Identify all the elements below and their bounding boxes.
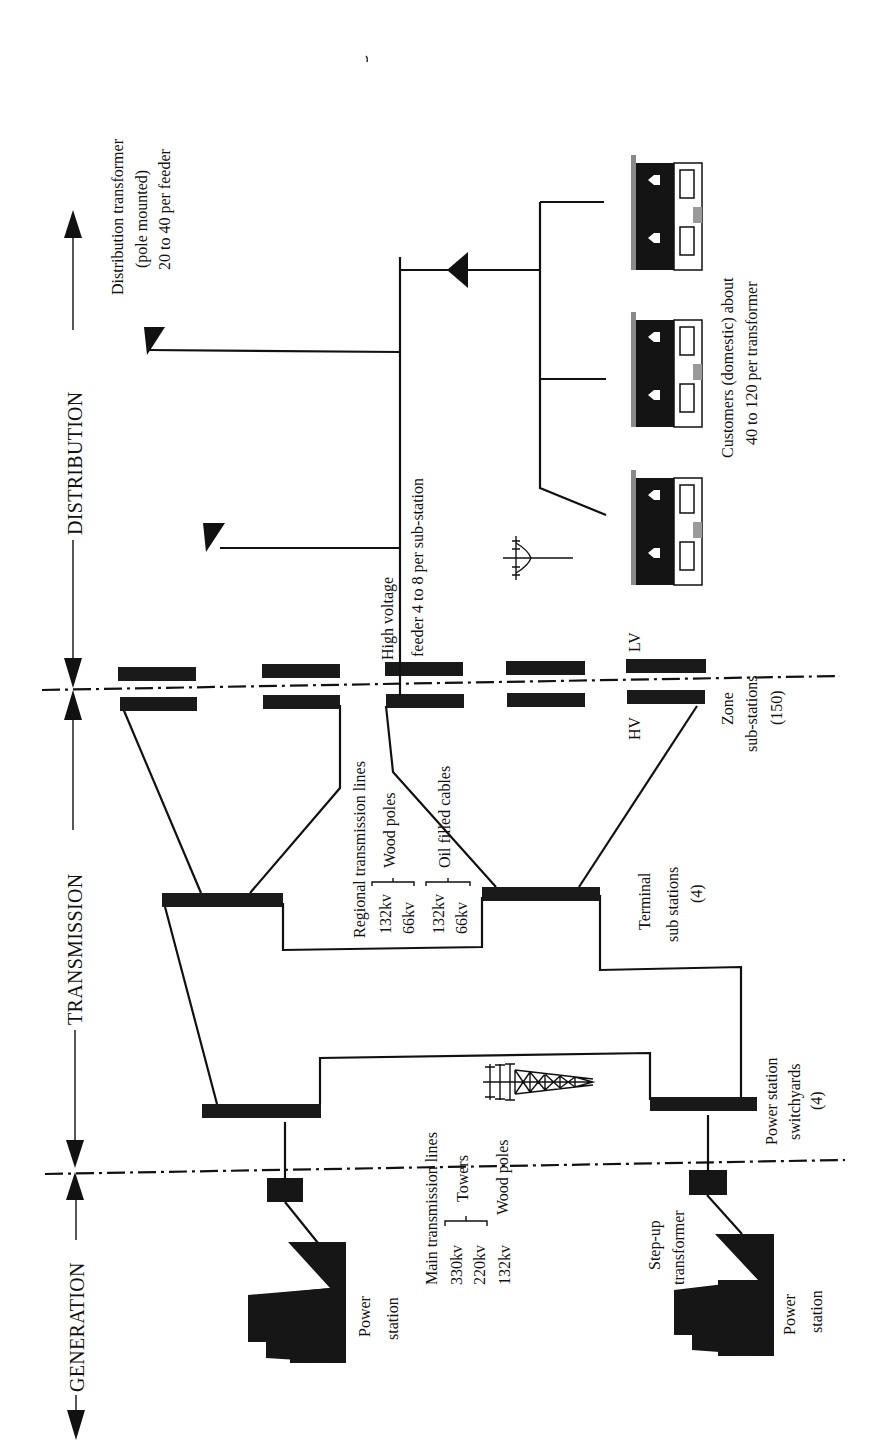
svg-text:Oil filled cables: Oil filled cables xyxy=(436,766,453,868)
distribution-transformer-icon xyxy=(447,252,468,288)
customers-label-line1: Customers (domestic) about xyxy=(719,277,737,458)
svg-text:132kv: 132kv xyxy=(496,1245,513,1285)
section-axis: DISTRIBUTION TRANSMISSION GENERATION xyxy=(64,210,88,1440)
arrow-down-icon xyxy=(64,658,82,688)
house-icon xyxy=(631,470,702,585)
transmission-tower-icon xyxy=(483,1064,593,1100)
regional-transmission-lines-label: Regional transmission lines 132kv 66kv W… xyxy=(351,761,470,938)
zone-label-line1: Zone xyxy=(719,692,736,725)
power-station-1-label-line2: station xyxy=(384,1297,401,1340)
switchyard-bus-1 xyxy=(202,1104,321,1118)
power-station-2-label-line1: Power xyxy=(781,1293,798,1335)
svg-text:66kv: 66kv xyxy=(453,902,470,934)
section-label-distribution: DISTRIBUTION xyxy=(64,391,86,535)
terminal-label-line1: Terminal xyxy=(636,872,653,930)
switchyards-label-line1: Power station xyxy=(763,1057,780,1145)
power-station-2: Power station xyxy=(674,1170,825,1356)
section-label-generation: GENERATION xyxy=(66,1262,88,1392)
zone-label-line3: (150) xyxy=(768,690,786,725)
svg-text:330kv: 330kv xyxy=(448,1245,465,1285)
power-station-2-label-line2: station xyxy=(808,1290,825,1333)
svg-text:220kv: 220kv xyxy=(471,1245,488,1285)
svg-text:132kv: 132kv xyxy=(377,894,394,934)
step-up-transformer-label-line2: transformer xyxy=(670,1210,687,1285)
customers-label-line2: 40 to 120 per transformer xyxy=(743,281,761,445)
power-system-diagram: DISTRIBUTION TRANSMISSION GENERATION Pow… xyxy=(0,0,890,1448)
arrow-down-icon xyxy=(66,1140,84,1168)
svg-text:Wood poles: Wood poles xyxy=(381,792,399,868)
terminal-bus-2 xyxy=(482,887,600,901)
hv-feeder-label-line2: feeder 4 to 8 per sub-station xyxy=(409,478,427,657)
terminal-label-line2: sub stations xyxy=(664,867,681,942)
section-label-transmission: TRANSMISSION xyxy=(64,874,86,1025)
distribution-transformer-label-line1: Distribution transformer xyxy=(109,138,126,295)
main-transmission-lines-label: Main transmission lines 330kv 220kv 132k… xyxy=(423,1132,513,1285)
power-station-1-label-line1: Power xyxy=(356,1295,373,1337)
pole-icon xyxy=(503,536,573,580)
svg-text:Towers: Towers xyxy=(454,1155,471,1202)
zone-label-line2: sub-stations xyxy=(743,676,760,752)
svg-text:Wood poles: Wood poles xyxy=(494,1139,512,1215)
svg-text:Main transmission lines: Main transmission lines xyxy=(423,1132,440,1285)
house-icon xyxy=(631,312,702,427)
distribution-transformer-label-line2: (pole mounted) xyxy=(133,170,151,268)
svg-text:132kv: 132kv xyxy=(430,894,447,934)
house-icon xyxy=(631,155,702,270)
switchyards-label-line3: (4) xyxy=(808,1091,826,1110)
zone-substations xyxy=(118,659,706,711)
svg-text:66kv: 66kv xyxy=(400,902,417,934)
switchyards-label-line2: switchyards xyxy=(786,1064,804,1140)
arrow-up-icon xyxy=(64,210,82,238)
hv-label: HV xyxy=(626,716,643,740)
distribution-transformer-label-line3: 20 to 40 per feeder xyxy=(156,148,174,270)
lv-label: LV xyxy=(626,632,643,652)
scan-speck xyxy=(366,56,367,62)
arrow-down-icon xyxy=(67,1410,85,1440)
svg-text:Regional transmission lines: Regional transmission lines xyxy=(351,761,369,938)
switchyard-bus-2 xyxy=(650,1097,757,1111)
hv-feeder-label-line1: High voltage xyxy=(379,577,397,660)
terminal-label-line3: (4) xyxy=(688,884,706,903)
power-station-1: Power station xyxy=(248,1178,401,1363)
terminal-bus-1 xyxy=(162,893,283,907)
arrow-up-icon xyxy=(66,1172,84,1200)
step-up-transformer-label-line1: Step-up xyxy=(646,1220,664,1270)
arrow-up-icon xyxy=(64,690,82,720)
